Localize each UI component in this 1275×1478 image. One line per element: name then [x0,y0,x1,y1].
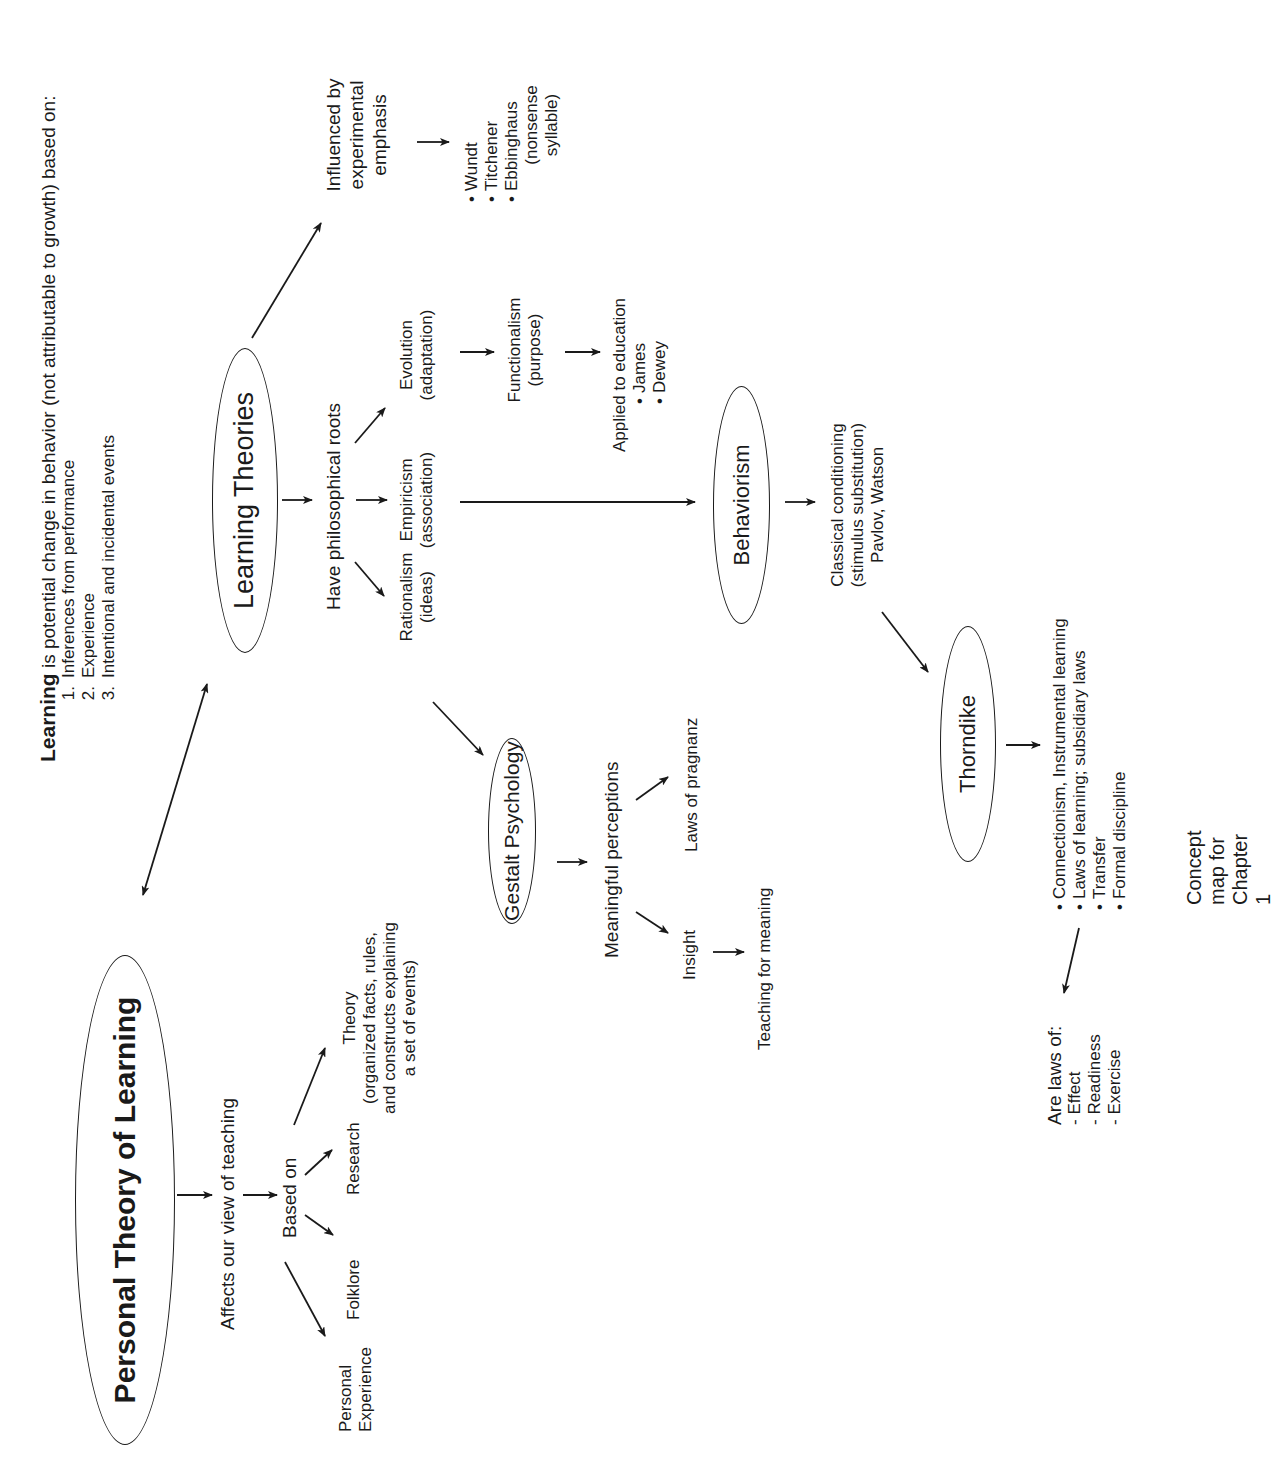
node-thorndike: Thorndike [940,626,996,862]
label-functionalism: Functionalism(purpose) [505,285,545,415]
label-evolution: Evolution(adaptation) [397,300,437,410]
definition-item: 1.Inferences from performance [59,32,79,714]
node-gestalt-psychology: Gestalt Psychology [488,738,536,924]
arrow-personal-to-learning-theories [143,684,207,895]
list-thorndike: Connectionism, Instrumental learning Law… [1050,570,1130,910]
label-based-on: Based on [278,1158,301,1238]
label-research: Research [344,1122,364,1195]
label-meaningful-perceptions: Meaningful perceptions [600,762,623,958]
definition-item: 2.Experience [79,32,99,714]
label-teaching-meaning: Teaching for meaning [755,887,775,1050]
label-personal-experience: PersonalExperience [336,1332,376,1432]
label-applied-education: Applied to education James Dewey [610,252,670,452]
caption: Concept map for Chapter 1 [1183,831,1275,906]
definition-item: 3.Intentional and incidental events [99,32,119,714]
label-classical-conditioning: Classical conditioning (stimulus substit… [828,405,888,605]
label-affects-teaching: Affects our view of teaching [216,1098,239,1330]
node-learning-theories: Learning Theories [212,348,278,653]
label-influenced: Influenced by experimental emphasis [322,60,391,210]
label-theory: Theory (organized facts, rules, and cons… [340,918,420,1118]
node-personal-theory: Personal Theory of Learning [75,955,175,1445]
list-experimentalists: Wundt Titchener Ebbinghaus (nonsense syl… [462,62,562,202]
list-laws-of: Are laws of: - Effect - Readiness - Exer… [1045,1005,1125,1125]
label-folklore: Folklore [344,1260,364,1320]
node-behaviorism: Behaviorism [713,386,770,624]
label-empiricism: Empiricism(association) [397,445,437,555]
label-have-roots: Have philosophical roots [322,403,345,610]
label-rationalism: Rationalism(ideas) [397,542,437,652]
label-insight: Insight [680,930,700,980]
label-laws-pragnanz: Laws of pragnanz [682,718,702,852]
learning-definition: Learning is potential change in behavior… [38,32,119,762]
